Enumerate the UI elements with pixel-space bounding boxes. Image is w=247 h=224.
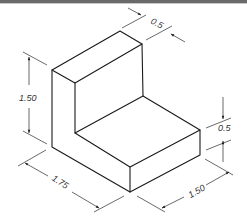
dimension-label: 1.75 bbox=[50, 173, 71, 191]
extension-line bbox=[137, 196, 165, 212]
dimension-label: 0.5 bbox=[218, 123, 232, 133]
dimension-height: 1.50 bbox=[19, 52, 47, 144]
dimension-step-height: 0.5 bbox=[206, 97, 232, 162]
dimension-arrow bbox=[206, 172, 229, 185]
extension-line bbox=[18, 150, 46, 166]
dimension-arrow bbox=[171, 34, 185, 42]
dimension-arrow bbox=[128, 8, 141, 15]
dimension-arrow bbox=[25, 163, 48, 176]
extension-line bbox=[206, 140, 231, 150]
extension-line bbox=[122, 15, 146, 28]
extension-line bbox=[205, 159, 233, 175]
dimension-top-thickness: 0.5 bbox=[122, 8, 185, 42]
dimension-label: 1.50 bbox=[19, 93, 37, 103]
l-block bbox=[52, 31, 200, 192]
extension-line bbox=[94, 196, 124, 212]
dimension-arrow bbox=[72, 192, 99, 208]
extension-line bbox=[23, 52, 47, 65]
extension-line bbox=[23, 131, 47, 144]
dimension-arrow bbox=[162, 197, 184, 208]
dimension-label: 1.50 bbox=[187, 183, 207, 200]
dimension-label: 0.5 bbox=[149, 16, 166, 31]
isometric-l-block-drawing: 0.5 1.50 0.5 1.75 1.50 bbox=[0, 0, 247, 224]
